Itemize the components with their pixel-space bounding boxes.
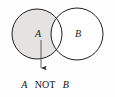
caption-operator-space xyxy=(30,79,33,90)
caption: A NOT B xyxy=(20,79,69,90)
set-a-label: A xyxy=(34,28,42,39)
caption-operand-right: B xyxy=(63,79,69,90)
venn-diagram-figure: A B A NOT B xyxy=(0,0,115,97)
caption-operator: NOT xyxy=(35,79,55,90)
venn-diagram-canvas: A B A NOT B xyxy=(0,0,115,97)
caption-operand-left: A xyxy=(20,79,28,90)
caption-operator-space-2 xyxy=(58,79,61,90)
set-b-label: B xyxy=(75,28,81,39)
